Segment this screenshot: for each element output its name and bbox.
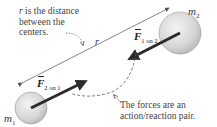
pair-note-line2: action/reaction pair. [120,111,195,122]
force-1-on-2-label: F1 on 2 [134,30,158,44]
action-reaction-note: The forces are an action/reaction pair. [120,100,195,121]
distance-note: r is the distance between the centers. [19,6,79,38]
force-2-on-1-label: F2 on 1 [37,77,61,91]
distance-note-line3: centers. [19,27,79,38]
force-1-on-2-symbol: F [134,30,141,42]
force-1-on-2-sub: 1 on 2 [141,37,157,44]
pair-note-line1: The forces are an [120,100,195,111]
distance-note-var: r [19,6,23,16]
mass-1-symbol: m [4,112,12,124]
mass-1-label: m1 [4,112,15,127]
mass-2-label: m2 [188,5,199,20]
mass-1-sub: 1 [12,119,16,127]
mass-2-symbol: m [188,5,196,17]
mass-2-sub: 2 [196,12,200,20]
action-reaction-connector [72,53,136,96]
distance-note-line1: is the distance [25,6,79,16]
distance-note-line2: between the [19,17,79,28]
distance-label: r [95,36,99,47]
force-2-on-1-sub: 2 on 1 [44,84,60,91]
force-2-on-1-symbol: F [37,77,44,89]
